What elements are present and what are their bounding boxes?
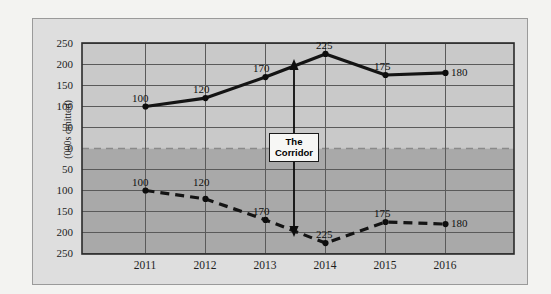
point-label-upper-2014: 225 (316, 40, 333, 51)
x-tick-2015: 2015 (363, 259, 407, 271)
x-tick-2012: 2012 (183, 259, 227, 271)
x-tick-2014: 2014 (303, 259, 347, 271)
point-label-lower-2012: 120 (193, 177, 210, 188)
point-label-lower-2013: 170 (253, 206, 270, 217)
corridor-callout: The Corridor (269, 133, 319, 162)
point-label-lower-2014: 225 (316, 229, 333, 240)
chart-frame: (000s omitted) 250 200 150 100 50 0 50 1… (32, 18, 528, 285)
point-label-upper-2013: 170 (253, 63, 270, 74)
point-label-upper-2012: 120 (193, 84, 210, 95)
corridor-callout-line1: The (274, 136, 314, 147)
point-label-upper-2016: 180 (451, 67, 468, 78)
point-label-lower-2016: 180 (451, 218, 468, 229)
point-label-upper-2011: 100 (132, 93, 149, 104)
point-label-upper-2015: 175 (374, 61, 391, 72)
x-tick-2011: 2011 (123, 259, 167, 271)
chart-page: (000s omitted) 250 200 150 100 50 0 50 1… (0, 0, 551, 294)
point-label-lower-2015: 175 (374, 208, 391, 219)
x-tick-2016: 2016 (423, 259, 467, 271)
x-tick-2013: 2013 (243, 259, 287, 271)
point-label-lower-2011: 100 (132, 177, 149, 188)
corridor-callout-line2: Corridor (274, 147, 314, 158)
